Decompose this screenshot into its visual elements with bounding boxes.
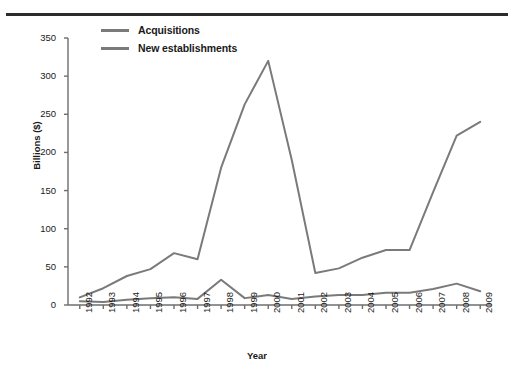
y-axis-tick-label: 50	[24, 262, 56, 272]
x-axis-tick-label: 2004	[366, 292, 376, 313]
line-chart-plot	[0, 0, 514, 373]
x-axis-tick-label: 1998	[225, 292, 235, 313]
legend-label-new-establishments: New establishments	[138, 43, 237, 54]
chart-figure: 050100150200250300350 199219931994199519…	[0, 0, 514, 373]
x-axis-tick-label: 2007	[437, 292, 447, 313]
x-axis-tick-label: 1997	[202, 292, 212, 313]
x-axis-tick-label: 1992	[84, 292, 94, 313]
x-axis-tick-label: 2008	[461, 292, 471, 313]
x-axis-tick-label: 2002	[319, 292, 329, 313]
legend-label-acquisitions: Acquisitions	[138, 25, 200, 36]
y-axis-tick-label: 150	[24, 186, 56, 196]
legend-swatch-new-establishments	[101, 47, 129, 50]
x-axis-tick-label: 2006	[414, 292, 424, 313]
x-axis-tick-label: 1993	[107, 292, 117, 313]
data-series-group	[80, 61, 480, 302]
y-axis-title: Billions ($)	[31, 106, 42, 186]
x-axis-tick-label: 2009	[484, 292, 494, 313]
x-axis-tick-label: 2001	[296, 292, 306, 313]
legend-swatch-acquisitions	[101, 29, 129, 32]
x-axis-tick-label: 2000	[272, 292, 282, 313]
x-axis-tick-label: 2005	[390, 292, 400, 313]
y-axis-tick-label: 350	[24, 33, 56, 43]
legend-item-acquisitions: Acquisitions	[101, 24, 237, 36]
axis-lines	[68, 38, 492, 305]
x-axis-tick-label: 1999	[249, 292, 259, 313]
series-line-new-establishments	[80, 61, 480, 297]
x-axis-tick-label: 1995	[154, 292, 164, 313]
y-axis-tick-label: 100	[24, 224, 56, 234]
x-axis-tick-label: 1994	[131, 292, 141, 313]
x-axis-tick-label: 1996	[178, 292, 188, 313]
y-axis-tick-label: 0	[24, 300, 56, 310]
x-axis-tick-label: 2003	[343, 292, 353, 313]
chart-legend: Acquisitions New establishments	[101, 24, 237, 54]
x-axis-title: Year	[0, 350, 514, 361]
y-axis-tick-label: 300	[24, 71, 56, 81]
legend-item-new-establishments: New establishments	[101, 42, 237, 54]
